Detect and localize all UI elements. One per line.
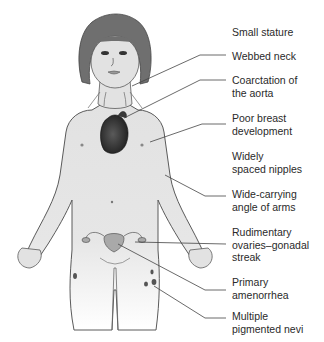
navel (111, 201, 113, 203)
heart (101, 115, 129, 153)
label-rudimentary-ovaries: Rudimentary ovaries–gonadal streak (232, 226, 309, 264)
left-eye (101, 51, 109, 55)
label-pigmented-nevi: Multiple pigmented nevi (232, 310, 303, 335)
face (91, 36, 139, 88)
head (79, 14, 151, 88)
label-wide-carrying-angle: Wide-carrying angle of arms (232, 188, 297, 213)
label-webbed-neck: Webbed neck (232, 50, 296, 63)
label-coarctation-aorta: Coarctation of the aorta (232, 74, 297, 99)
label-primary-amenorrhea: Primary amenorrhea (232, 276, 289, 301)
right-eye (119, 51, 127, 55)
right-nipple (140, 143, 143, 146)
label-small-stature: Small stature (232, 26, 293, 39)
label-widely-spaced-nipples: Widely spaced nipples (232, 150, 302, 175)
label-poor-breast-development: Poor breast development (232, 112, 292, 137)
left-nipple (80, 143, 83, 146)
